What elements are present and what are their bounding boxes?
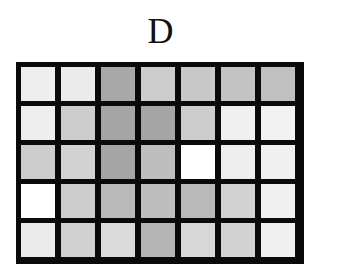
grid-cell-r3-c4 <box>141 145 175 179</box>
grid-cell-r1-c7 <box>261 67 295 101</box>
grid-cell-r1-c4 <box>141 67 175 101</box>
grid-cell-r4-c2 <box>61 184 95 218</box>
grid-cell-r2-c4 <box>141 106 175 140</box>
grid-cell-r4-c6 <box>221 184 255 218</box>
grid-cell-r5-c2 <box>61 223 95 257</box>
grid-cell-r4-c5 <box>181 184 215 218</box>
grid-cell-r3-c6 <box>221 145 255 179</box>
grid-cell-r4-c4 <box>141 184 175 218</box>
grid-cell-r4-c1 <box>21 184 55 218</box>
grid-cell-r1-c2 <box>61 67 95 101</box>
grid-cell-r3-c3 <box>101 145 135 179</box>
grid-cell-r1-c6 <box>221 67 255 101</box>
grid-cell-r3-c2 <box>61 145 95 179</box>
grid-cell-r1-c3 <box>101 67 135 101</box>
grid-cell-r5-c4 <box>141 223 175 257</box>
grid-cell-r4-c7 <box>261 184 295 218</box>
grid-cell-r2-c6 <box>221 106 255 140</box>
grid-cell-r3-c5 <box>181 145 215 179</box>
grid-cell-r3-c1 <box>21 145 55 179</box>
grid-cell-r2-c2 <box>61 106 95 140</box>
grid-cell-r1-c5 <box>181 67 215 101</box>
panel-title: D <box>0 11 321 51</box>
grid-cell-r5-c5 <box>181 223 215 257</box>
grid-cell-r1-c1 <box>21 67 55 101</box>
grid-cell-r5-c6 <box>221 223 255 257</box>
grid-cell-r5-c1 <box>21 223 55 257</box>
grid-cell-r3-c7 <box>261 145 295 179</box>
grid-cell-r2-c7 <box>261 106 295 140</box>
grid-cell-r4-c3 <box>101 184 135 218</box>
grid-cell-r2-c3 <box>101 106 135 140</box>
grid-cell-r2-c1 <box>21 106 55 140</box>
grid-cell-r5-c7 <box>261 223 295 257</box>
grid-cell-r2-c5 <box>181 106 215 140</box>
shade-grid <box>16 62 304 264</box>
grid-cell-r5-c3 <box>101 223 135 257</box>
